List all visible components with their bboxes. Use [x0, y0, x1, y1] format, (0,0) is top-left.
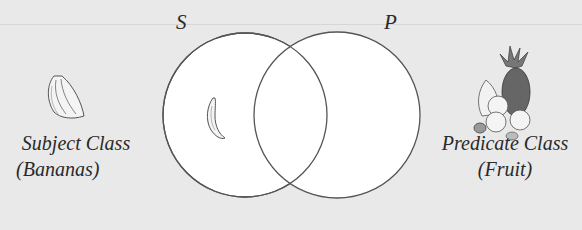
venn-diagram: [0, 0, 582, 230]
subject-class-label: Subject Class (Bananas): [10, 130, 142, 182]
subject-title: Subject Class: [10, 130, 142, 156]
predicate-class-label: Predicate Class (Fruit): [430, 130, 580, 182]
banana-bunch-icon: [48, 76, 84, 118]
predicate-subtitle: (Fruit): [430, 156, 580, 182]
circle-label-p: P: [384, 10, 397, 35]
subject-subtitle: (Bananas): [10, 156, 142, 182]
fruit-basket-icon: [474, 46, 530, 140]
predicate-title: Predicate Class: [430, 130, 580, 156]
circle-label-s: S: [176, 10, 187, 35]
circle-p: [254, 32, 420, 198]
